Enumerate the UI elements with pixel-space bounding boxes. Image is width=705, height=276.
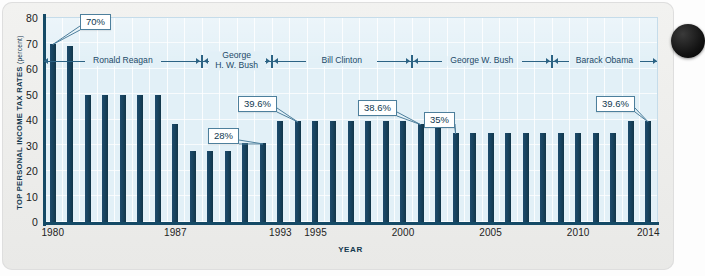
era-arrow-left-icon — [274, 58, 278, 64]
era-label: Bill Clinton — [318, 56, 365, 66]
x-axis-title: YEAR — [44, 245, 657, 254]
bar-2009 — [558, 133, 564, 222]
era-rule-left — [44, 61, 85, 62]
bar-1993 — [277, 121, 283, 222]
bar-1984 — [120, 95, 126, 223]
bar-1987 — [172, 124, 178, 222]
bar-2000 — [400, 121, 406, 222]
bar-1995 — [312, 121, 318, 222]
x-tick-1995: 1995 — [304, 227, 327, 238]
y-axis-title-text: TOP PERSONAL INCOME TAX RATES — [15, 66, 24, 209]
x-tick-2010: 2010 — [567, 227, 590, 238]
bar-2003 — [453, 133, 459, 222]
x-tick-1980: 1980 — [41, 227, 64, 238]
callout-2014: 39.6% — [596, 96, 635, 112]
bar-2002 — [435, 124, 441, 222]
callout-1980: 70% — [80, 14, 111, 30]
x-tick-1993: 1993 — [269, 227, 292, 238]
era-divider-tick — [202, 55, 203, 68]
y-axis-title-unit: (percent) — [16, 35, 23, 64]
bar-1985 — [137, 95, 143, 223]
bar-1994 — [295, 121, 301, 222]
era-george-h-w-bush: GeorgeH. W. Bush — [202, 48, 272, 74]
y-axis-title: TOP PERSONAL INCOME TAX RATES (percent) — [15, 28, 24, 218]
era-arrow-left-icon — [44, 58, 48, 64]
era-arrow-left-icon — [554, 58, 558, 64]
x-axis-tick-labels: 19801987199319952000200520102014 — [44, 227, 657, 241]
bar-1982 — [85, 95, 91, 223]
x-tick-1987: 1987 — [164, 227, 187, 238]
era-label: GeorgeH. W. Bush — [208, 51, 266, 70]
bar-2008 — [540, 133, 546, 222]
bar-1991 — [242, 143, 248, 222]
president-era-band: Ronald ReaganGeorgeH. W. BushBill Clinto… — [44, 48, 657, 74]
era-arrow-left-icon — [204, 58, 208, 64]
bar-2001 — [418, 124, 424, 222]
era-arrow-right-icon — [653, 58, 657, 64]
era-label: Barack Obama — [573, 56, 636, 66]
era-arrow-right-icon — [406, 58, 410, 64]
x-tick-2014: 2014 — [637, 227, 660, 238]
callout-2001: 38.6% — [358, 100, 397, 116]
bar-1992 — [260, 143, 266, 222]
bar-2005 — [488, 133, 494, 222]
era-divider-tick — [552, 55, 553, 68]
bar-2010 — [575, 133, 581, 222]
era-divider-tick — [412, 55, 413, 68]
era-barack-obama: Barack Obama — [552, 48, 657, 74]
bar-2006 — [505, 133, 511, 222]
era-arrow-right-icon — [266, 58, 270, 64]
x-tick-2000: 2000 — [392, 227, 415, 238]
bar-2007 — [523, 133, 529, 222]
bar-1997 — [348, 121, 354, 222]
era-arrow-right-icon — [196, 58, 200, 64]
bar-1996 — [330, 121, 336, 222]
bar-2004 — [470, 133, 476, 222]
corner-dot-graphic — [671, 24, 705, 58]
y-tick-0: 0 — [14, 216, 38, 228]
callout-1992: 28% — [208, 128, 239, 144]
bar-1990 — [225, 151, 231, 222]
callout-2003: 35% — [424, 112, 455, 128]
x-tick-2005: 2005 — [479, 227, 502, 238]
x-axis-line — [43, 222, 659, 225]
bar-2011 — [593, 133, 599, 222]
bar-2014 — [645, 121, 651, 222]
bar-2012 — [610, 133, 616, 222]
bar-1999 — [383, 121, 389, 222]
bar-1998 — [365, 121, 371, 222]
era-arrow-right-icon — [546, 58, 550, 64]
era-label: Ronald Reagan — [90, 56, 156, 66]
era-bill-clinton: Bill Clinton — [272, 48, 412, 74]
tax-rate-chart-figure: 01020304050607080 TOP PERSONAL INCOME TA… — [0, 0, 705, 276]
era-george-w-bush: George W. Bush — [412, 48, 552, 74]
bar-1986 — [155, 95, 161, 223]
bar-1983 — [102, 95, 108, 223]
era-arrow-left-icon — [414, 58, 418, 64]
era-ronald-reagan: Ronald Reagan — [44, 48, 202, 74]
bar-2013 — [628, 121, 634, 222]
y-tick-80: 80 — [14, 12, 38, 24]
callout-1994: 39.6% — [238, 96, 277, 112]
era-label: George W. Bush — [447, 56, 516, 66]
bar-1988 — [190, 151, 196, 222]
era-divider-tick — [272, 55, 273, 68]
bar-1989 — [207, 151, 213, 222]
